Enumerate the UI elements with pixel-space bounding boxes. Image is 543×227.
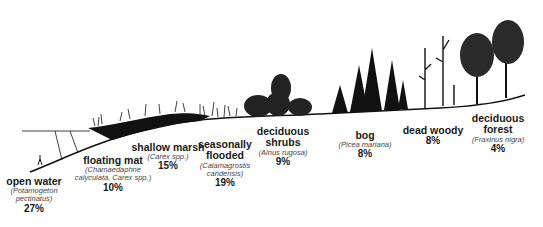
zone-deciduous-forest: deciduous forest (Fraxinus nigra) 4% <box>468 113 528 155</box>
spruce-trees <box>332 48 408 113</box>
zone-open-water: open water (Potamogeton pectinatus) 27% <box>4 176 64 214</box>
zone-scientific: (Calamagrostis candensis) <box>195 162 255 178</box>
zone-dead-woody: dead woody 8% <box>398 125 468 147</box>
zone-percent: 8% <box>330 149 400 160</box>
shrub-clump <box>244 74 312 117</box>
zone-seasonally-flooded: seasonally flooded (Calamagrostis canden… <box>195 139 255 189</box>
zone-percent: 19% <box>195 178 255 189</box>
zone-percent: 27% <box>4 204 64 215</box>
zone-percent: 8% <box>398 136 468 147</box>
zone-scientific: (Potamogeton pectinatus) <box>4 187 64 203</box>
small-plant <box>38 155 42 165</box>
zone-name: deciduous shrubs <box>255 126 311 149</box>
dead-snags <box>419 36 454 108</box>
wetland-transect-diagram: open water (Potamogeton pectinatus) 27% … <box>0 0 543 227</box>
zone-percent: 9% <box>255 157 311 168</box>
deciduous-trees <box>460 20 524 104</box>
zone-name: deciduous forest <box>468 113 528 136</box>
zone-deciduous-shrubs: deciduous shrubs (Alnus rugosa) 9% <box>255 126 311 168</box>
marsh-vegetation-mass <box>88 113 210 140</box>
zone-name: seasonally flooded <box>195 139 255 162</box>
zone-percent: 10% <box>74 183 152 194</box>
zone-percent: 4% <box>468 144 528 155</box>
zone-bog: bog (Picea mariana) 8% <box>330 130 400 160</box>
